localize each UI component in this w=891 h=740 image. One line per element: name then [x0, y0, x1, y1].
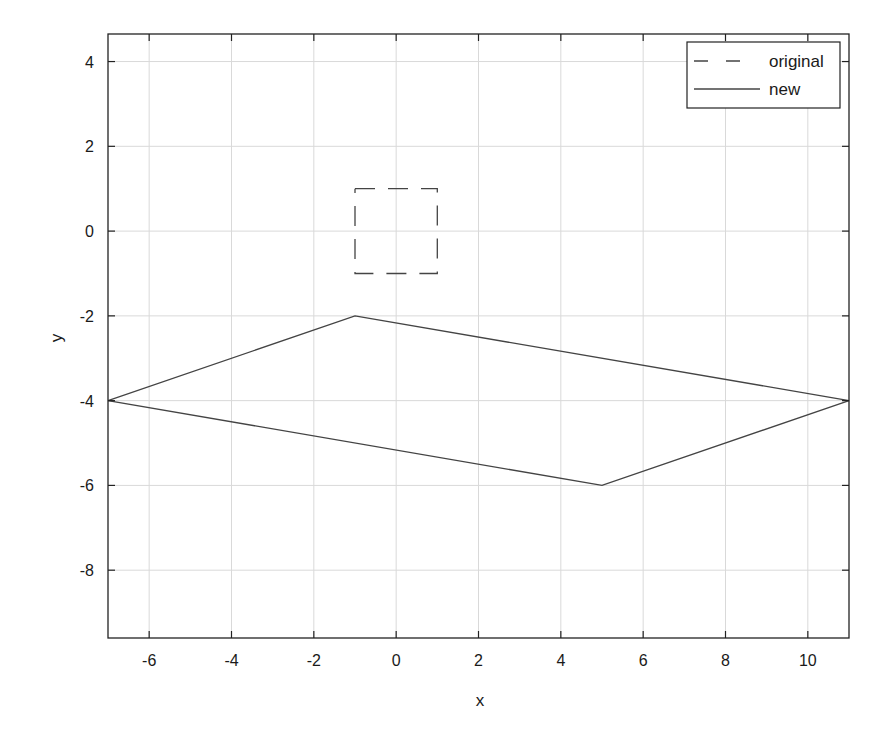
x-tick-label: 4: [556, 652, 565, 669]
x-tick-label: 2: [474, 652, 483, 669]
x-tick-label: 6: [639, 652, 648, 669]
y-tick-label: 4: [85, 54, 94, 71]
legend-label-original: original: [769, 52, 824, 71]
y-tick-label: -4: [80, 393, 94, 410]
legend: original new: [687, 42, 840, 108]
y-tick-label: -2: [80, 308, 94, 325]
x-tick-label: -6: [142, 652, 156, 669]
y-tick-label: -8: [80, 562, 94, 579]
grid-lines: [108, 34, 849, 638]
x-axis-label: x: [476, 691, 485, 710]
legend-label-new: new: [769, 80, 801, 99]
y-tick-label: -6: [80, 477, 94, 494]
y-tick-label: 2: [85, 138, 94, 155]
y-tick-label: 0: [85, 223, 94, 240]
y-axis-label: y: [47, 333, 66, 342]
x-tick-label: 0: [392, 652, 401, 669]
x-tick-labels: -6-4-20246810: [142, 652, 817, 669]
x-tick-label: -4: [224, 652, 238, 669]
chart-canvas: -6-4-20246810 -8-6-4-2024 x y original n…: [0, 0, 891, 740]
x-tick-label: 8: [721, 652, 730, 669]
x-tick-label: -2: [307, 652, 321, 669]
y-tick-labels: -8-6-4-2024: [80, 54, 94, 580]
x-tick-label: 10: [799, 652, 817, 669]
